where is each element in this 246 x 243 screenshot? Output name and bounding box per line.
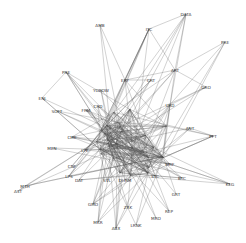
node-label: MKR bbox=[93, 220, 102, 225]
node-label: LPE bbox=[81, 148, 89, 153]
graph-edges bbox=[18, 14, 230, 228]
graph-edge bbox=[86, 110, 105, 127]
node-label: ANT bbox=[186, 126, 195, 131]
node-label: GRT bbox=[172, 192, 181, 197]
node-label: ART bbox=[171, 68, 179, 73]
node-label: STC bbox=[151, 174, 159, 179]
graph-edge bbox=[163, 105, 170, 158]
node-label: FRM bbox=[82, 108, 91, 113]
node-label: GMO bbox=[88, 202, 99, 207]
node-label: PRE bbox=[62, 70, 70, 75]
node-label: LPS bbox=[65, 174, 73, 179]
node-label: URD bbox=[165, 103, 174, 108]
node-label: DHRM bbox=[119, 178, 132, 183]
node-label: DAT bbox=[75, 178, 84, 183]
node-label: CME bbox=[67, 135, 77, 140]
node-label: KEG bbox=[226, 182, 235, 187]
node-label: CNF bbox=[68, 164, 77, 169]
graph-edge bbox=[125, 29, 149, 80]
graph-edge bbox=[100, 25, 125, 80]
node-label: SVL bbox=[103, 178, 112, 183]
node-label: CRD bbox=[93, 104, 102, 109]
node-label: MEN bbox=[47, 146, 56, 151]
graph-edge bbox=[57, 111, 101, 130]
node-label: CRT bbox=[147, 78, 156, 83]
graph-edge bbox=[163, 136, 213, 158]
graph-edge bbox=[100, 25, 120, 127]
network-graph: AMBDATAITCPREPREARTERYCRTGROYOBOWENJSOFT… bbox=[0, 0, 246, 243]
graph-edge bbox=[132, 42, 225, 148]
graph-edge bbox=[72, 137, 108, 140]
node-label: PRE bbox=[221, 40, 229, 45]
node-label: GRO bbox=[201, 85, 211, 90]
graph-edge bbox=[149, 29, 175, 70]
node-label: ENJ bbox=[38, 96, 45, 101]
node-label: AST bbox=[14, 189, 23, 194]
node-label: DATA bbox=[181, 12, 192, 17]
node-label: MRF bbox=[166, 162, 176, 167]
graph-edge bbox=[170, 87, 206, 105]
graph-node-labels: AMBDATAITCPREPREARTERYCRTGROYOBOWENJSOFT… bbox=[14, 12, 234, 231]
node-label: LRNK bbox=[130, 223, 141, 228]
node-label: MRO bbox=[151, 216, 162, 221]
node-label: AMB bbox=[95, 23, 104, 28]
graph-edge bbox=[136, 173, 148, 225]
node-label: SOFT bbox=[52, 109, 63, 114]
node-label: ZRK bbox=[124, 205, 133, 210]
node-label: BTC bbox=[178, 176, 186, 181]
graph-edge bbox=[120, 87, 206, 127]
node-label: REP bbox=[165, 209, 174, 214]
graph-edge bbox=[170, 164, 230, 184]
node-label: ABX bbox=[112, 226, 121, 231]
node-label: ERY bbox=[121, 78, 129, 83]
graph-edge bbox=[175, 14, 186, 70]
node-label: YOBOW bbox=[92, 88, 109, 93]
node-label: PPT bbox=[209, 134, 217, 139]
graph-edge bbox=[42, 72, 66, 98]
graph-edge bbox=[52, 148, 100, 149]
node-label: ITC bbox=[146, 27, 153, 32]
